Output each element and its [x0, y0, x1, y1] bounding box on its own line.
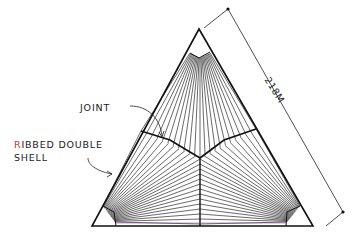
dimension-line	[204, 9, 343, 226]
ribbed-shell-label-rest: IBBED DOUBLE	[21, 139, 102, 150]
sketch-canvas: JOINT RIBBED DOUBLE SHELL 218M	[0, 0, 363, 238]
ribbed-shell-label-line1: RIBBED DOUBLE	[14, 139, 103, 150]
shell-arrowhead-icon	[107, 171, 112, 177]
joint-label: JOINT	[80, 102, 110, 113]
dimension-tick-top	[226, 7, 229, 10]
joint-leader-arrow	[130, 106, 162, 136]
shell-plan-drawing	[0, 0, 363, 238]
outer-triangle	[92, 29, 313, 226]
dimension-tick-bottom	[341, 210, 344, 213]
ribbed-shell-label-line2: SHELL	[14, 152, 48, 163]
